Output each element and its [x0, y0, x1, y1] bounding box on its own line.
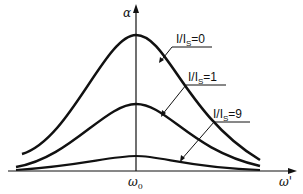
curve-label-9: I/IS=9	[213, 107, 242, 121]
label-suffix: =1	[203, 70, 217, 84]
label-prefix: I/I	[188, 70, 198, 84]
label-suffix: =9	[228, 107, 242, 121]
label-subscript: S	[198, 77, 203, 86]
x-axis-label: ω'	[279, 175, 292, 189]
label-subscript: S	[223, 114, 228, 123]
curve-label-0: I/IS=0	[176, 32, 205, 46]
y-axis-label: α	[123, 6, 131, 20]
x-axis-arrow-icon	[288, 168, 297, 174]
y-axis-arrow-icon	[133, 4, 139, 13]
curve-i-is-0	[22, 35, 260, 160]
curve-label-1: I/IS=1	[188, 70, 217, 84]
label-prefix: I/I	[176, 32, 186, 46]
curve-i-is-9	[16, 156, 260, 170]
label-suffix: =0	[191, 32, 205, 46]
label-prefix: I/I	[213, 107, 223, 121]
x-tick-omega0: ω0	[128, 175, 143, 189]
tick-symbol: ω	[128, 175, 138, 189]
diagram-graphics	[0, 0, 303, 194]
absorption-diagram: α I/IS=0 I/IS=1 I/IS=9 ω0 ω'	[0, 0, 303, 194]
tick-subscript: 0	[138, 182, 143, 191]
label-subscript: S	[186, 39, 191, 48]
leader-line-9	[181, 122, 250, 160]
